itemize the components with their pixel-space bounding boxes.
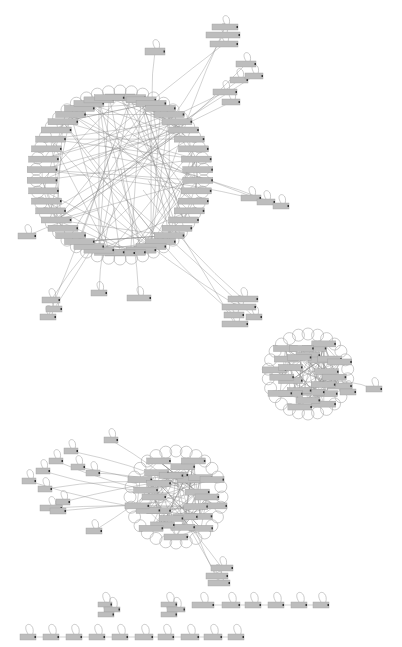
node-port-marker [84, 113, 86, 115]
node-port-marker [70, 129, 72, 131]
graph-node [178, 198, 208, 204]
node-port-marker [312, 347, 314, 349]
graph-node [178, 146, 208, 152]
graph-node [312, 341, 336, 347]
satellite-node [56, 499, 70, 505]
node-port-marker [162, 527, 164, 529]
edge-layer [27, 27, 374, 637]
node-port-marker [350, 385, 352, 387]
node-port-marker [60, 200, 62, 202]
graph-node [322, 374, 346, 380]
node-port-marker [174, 107, 176, 109]
node-port-marker [35, 636, 37, 638]
graph-node [48, 225, 78, 231]
node-port-marker [218, 496, 220, 498]
node-port-marker [310, 390, 312, 392]
satellite-node [104, 437, 118, 443]
satellite-node [18, 233, 36, 239]
node-port-marker [176, 604, 178, 606]
node-port-marker [237, 26, 239, 28]
satellite-node [224, 312, 244, 318]
node-port-marker [70, 219, 72, 221]
satellite-node [64, 448, 78, 454]
graph-node [32, 146, 62, 152]
node-port-marker [288, 205, 290, 207]
self-loop-edge [76, 456, 83, 464]
satellite-node [86, 470, 100, 476]
graph-node [27, 167, 57, 173]
satellite-node [257, 199, 275, 205]
graph-node [162, 119, 192, 125]
chain-node [43, 634, 59, 640]
graph-node [169, 127, 199, 133]
graph-node [29, 156, 59, 162]
node-port-marker [165, 496, 167, 498]
node-port-marker [49, 470, 51, 472]
graph-node [174, 136, 204, 142]
node-port-marker [239, 604, 241, 606]
node-port-marker [173, 636, 175, 638]
graph-node [125, 503, 149, 509]
self-loop-edge [27, 470, 34, 478]
node-port-marker [310, 356, 312, 358]
satellite-node [222, 99, 240, 105]
self-loop-edge [150, 532, 162, 544]
chain-node [112, 634, 128, 640]
node-port-marker [102, 246, 104, 248]
node-port-marker [106, 292, 108, 294]
satellite-node [71, 464, 85, 470]
satellite-node [40, 314, 56, 320]
node-port-marker [64, 138, 66, 140]
graph-node [184, 504, 208, 510]
graph-node [41, 127, 71, 133]
node-port-marker [306, 604, 308, 606]
node-port-marker [165, 102, 167, 104]
node-port-marker [187, 474, 189, 476]
chain-node [313, 602, 329, 608]
node-port-marker [221, 636, 223, 638]
satellite-node [366, 386, 382, 392]
satellite-node [228, 296, 258, 302]
node-port-marker [165, 246, 167, 248]
graph-node [200, 477, 224, 483]
node-port-marker [292, 376, 294, 378]
node-port-marker [255, 306, 257, 308]
node-port-marker [56, 179, 58, 181]
graph-node [174, 208, 204, 214]
node-port-marker [81, 636, 83, 638]
node-port-marker [69, 501, 71, 503]
graph-node [296, 397, 320, 403]
self-loop-edge [251, 592, 258, 602]
node-port-marker [61, 308, 63, 310]
self-loop-edge [97, 282, 104, 290]
graph-node [159, 473, 183, 479]
graph-node [32, 198, 62, 204]
node-port-marker [123, 97, 125, 99]
self-loop-edge [91, 462, 98, 470]
node-port-marker [55, 316, 57, 318]
graph-node [134, 487, 158, 493]
graph-node [94, 95, 124, 101]
node-port-marker [211, 527, 213, 529]
graph-node [48, 119, 78, 125]
self-loop-edge [54, 450, 61, 458]
node-port-marker [345, 376, 347, 378]
node-port-marker [113, 614, 115, 616]
node-port-marker [211, 179, 213, 181]
satellite-node [22, 478, 36, 484]
graph-edge [102, 209, 239, 307]
graph-node [162, 225, 192, 231]
node-port-marker [334, 403, 336, 405]
node-port-marker [99, 472, 101, 474]
self-loop-edge [188, 624, 195, 634]
self-loop-edge [372, 378, 379, 386]
node-port-marker [57, 158, 59, 160]
node-port-marker [111, 604, 113, 606]
node-port-marker [119, 609, 121, 611]
self-loop-edge [69, 440, 76, 448]
node-port-marker [203, 138, 205, 140]
node-port-marker [169, 510, 171, 512]
self-loop-edge [264, 191, 271, 199]
node-port-marker [150, 297, 152, 299]
node-port-marker [93, 107, 95, 109]
